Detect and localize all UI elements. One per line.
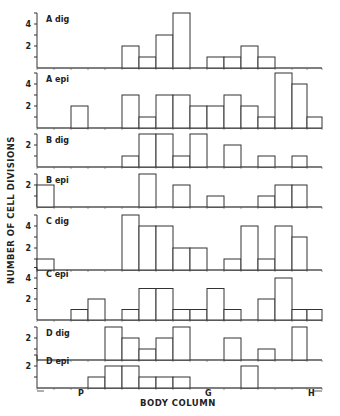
histogram-bar xyxy=(88,377,105,388)
histogram-bar xyxy=(292,156,307,167)
histogram-bar xyxy=(207,57,224,68)
y-tick-label: 2 xyxy=(25,102,31,111)
x-marker-p: P xyxy=(78,389,84,398)
y-tick-label: 2 xyxy=(25,42,31,51)
histogram-bar xyxy=(37,259,54,270)
histogram-bar xyxy=(275,185,292,207)
y-tick-label: 4 xyxy=(25,222,31,231)
y-tick-label: 2 xyxy=(25,295,31,304)
histogram-bar xyxy=(139,134,156,167)
histogram-bar xyxy=(307,117,322,128)
histogram-bar xyxy=(207,289,224,321)
y-tick-label: 4 xyxy=(25,80,31,89)
panel-label: C dig xyxy=(46,217,69,226)
histogram-bar xyxy=(258,117,275,128)
histogram-bar xyxy=(122,215,139,270)
histogram-bar xyxy=(156,134,173,167)
y-tick-label: 4 xyxy=(25,274,31,283)
histogram-bar xyxy=(139,174,156,207)
histogram-bar xyxy=(258,156,275,167)
histogram-bar xyxy=(224,259,241,270)
histogram-panels: 24A dig24A epi2B dig2B epi24C dig24C epi… xyxy=(0,0,340,416)
histogram-bar xyxy=(173,310,190,321)
histogram-bar xyxy=(173,156,190,167)
histogram-bar xyxy=(139,57,156,68)
histogram-bar xyxy=(173,185,190,207)
y-tick-label: 2 xyxy=(25,334,31,343)
histogram-bar xyxy=(307,310,322,321)
y-tick-label: 2 xyxy=(25,244,31,253)
histogram-bar xyxy=(224,310,241,321)
histogram-bar xyxy=(207,106,224,128)
histogram-bar xyxy=(122,310,139,321)
panel-a-dig: 24A dig xyxy=(25,13,322,70)
x-marker-h: H xyxy=(308,389,315,398)
histogram-bar xyxy=(258,349,275,360)
panel-label: B dig xyxy=(46,136,69,145)
histogram-bar xyxy=(190,310,207,321)
histogram-bar xyxy=(71,106,88,128)
histogram-bar xyxy=(139,289,156,321)
histogram-bar xyxy=(224,95,241,128)
histogram-bar xyxy=(224,57,241,68)
histogram-bar xyxy=(241,226,258,270)
histogram-bar xyxy=(173,327,190,360)
histogram-bar xyxy=(156,289,173,321)
histogram-bar xyxy=(292,237,307,270)
histogram-bar xyxy=(156,377,173,388)
panel-d-dig: 2D dig xyxy=(25,327,322,362)
histogram-bar xyxy=(292,310,307,321)
histogram-bar xyxy=(139,377,156,388)
histogram-bar xyxy=(241,366,258,388)
histogram-bar xyxy=(258,196,275,207)
histogram-bar xyxy=(258,259,275,270)
histogram-bar xyxy=(224,145,241,167)
histogram-bar xyxy=(190,134,207,167)
histogram-bar xyxy=(122,366,139,388)
y-axis-label-text: NUMBER OF CELL DIVISIONS xyxy=(6,136,16,284)
histogram-bar xyxy=(156,338,173,360)
histogram-bar xyxy=(258,57,275,68)
histogram-bar xyxy=(156,95,173,128)
histogram-bar xyxy=(173,377,190,388)
panel-label: A dig xyxy=(46,15,69,24)
histogram-bar xyxy=(224,338,241,360)
histogram-bar xyxy=(105,327,122,360)
panel-label: C epi xyxy=(46,270,69,279)
panel-b-dig: 2B dig xyxy=(25,134,322,169)
histogram-bar xyxy=(37,185,54,207)
histogram-bar xyxy=(105,366,122,388)
x-axis-label: BODY COLUMN xyxy=(140,398,216,408)
panel-label: D dig xyxy=(46,329,70,338)
x-marker-g: G xyxy=(205,389,212,398)
y-tick-label: 2 xyxy=(25,141,31,150)
histogram-bar xyxy=(139,349,156,360)
histogram-bar xyxy=(241,46,258,68)
histogram-bar xyxy=(275,73,292,128)
histogram-bar xyxy=(258,299,275,320)
histogram-bar xyxy=(122,95,139,128)
y-tick-label: 2 xyxy=(25,181,31,190)
histogram-bar xyxy=(71,310,88,321)
panel-label: B epi xyxy=(46,176,69,185)
histogram-bar xyxy=(275,226,292,270)
panel-b-epi: 2B epi xyxy=(25,174,322,209)
histogram-bar xyxy=(190,106,207,128)
panel-label: A epi xyxy=(46,75,69,84)
y-tick-label: 2 xyxy=(25,362,31,371)
histogram-bar xyxy=(156,226,173,270)
histogram-bar xyxy=(292,327,307,360)
histogram-bar xyxy=(122,46,139,68)
y-axis-label: NUMBER OF CELL DIVISIONS xyxy=(4,120,18,300)
histogram-bar xyxy=(275,278,292,320)
histogram-bar xyxy=(88,299,105,320)
histogram-bar xyxy=(292,185,307,207)
panel-c-dig: 24C dig xyxy=(25,215,322,272)
histogram-bar xyxy=(292,84,307,128)
histogram-bar xyxy=(156,35,173,68)
panel-label: D epi xyxy=(46,357,70,366)
panel-c-epi: 24C epi xyxy=(25,268,322,323)
histogram-bar xyxy=(122,338,139,360)
histogram-bar xyxy=(139,117,156,128)
histogram-bar xyxy=(122,156,139,167)
